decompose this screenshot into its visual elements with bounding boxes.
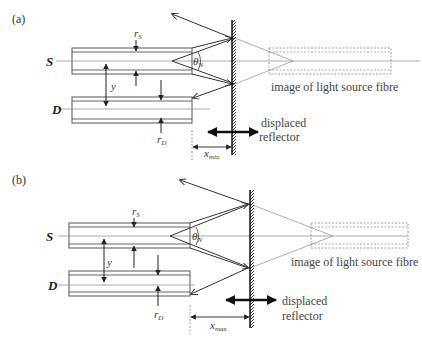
- fibre-optic-displacement-sensor-diagram: (a) S D rS y rD θN: [0, 0, 422, 345]
- cone-upper: [172, 38, 235, 61]
- angle-symbol: θN: [192, 230, 202, 244]
- angle-symbol: θN: [193, 55, 203, 69]
- ray-incident-lower: [190, 248, 248, 268]
- detector-fibre: [69, 271, 190, 296]
- reflector-caption-2: reflector: [282, 309, 323, 323]
- detector-label: D: [47, 278, 58, 293]
- ray-reflected-upper: [180, 180, 248, 204]
- xmin-symbol: xmin: [203, 147, 220, 161]
- ray-reflected-lower: [193, 84, 232, 98]
- cone-upper: [170, 204, 250, 236]
- cone-lower: [170, 236, 250, 268]
- panel-b-label: (b): [12, 173, 26, 187]
- y-symbol: y: [110, 80, 116, 92]
- rs-symbol: rS: [132, 205, 140, 219]
- image-caption: image of light source fibre: [271, 80, 398, 94]
- panel-a-label: (a): [12, 12, 25, 26]
- panel-b: (b) S D rS y rD θN: [12, 173, 418, 334]
- ray-reflected-lower: [191, 268, 248, 294]
- panel-a: (a) S D rS y rD θN: [12, 12, 420, 161]
- ray-incident-upper: [190, 204, 248, 223]
- reflector-caption-1: displaced: [261, 116, 306, 130]
- source-label: S: [46, 54, 53, 69]
- y-symbol: y: [106, 256, 112, 268]
- rd-symbol: rD: [154, 308, 163, 322]
- ray-reflected-upper: [172, 14, 232, 38]
- virtual-ray-upper: [235, 38, 293, 61]
- reflector-caption-2: reflector: [259, 130, 300, 144]
- virtual-ray-upper: [250, 204, 333, 236]
- detector-fibre: [72, 97, 192, 123]
- source-label: S: [46, 229, 53, 244]
- xmax-symbol: xmax: [209, 319, 227, 333]
- detector-label: D: [51, 102, 62, 117]
- reflector-caption-1: displaced: [282, 294, 327, 308]
- cone-lower: [172, 61, 235, 84]
- image-caption: image of light source fibre: [291, 255, 418, 269]
- image-fibre: [311, 223, 408, 248]
- reflector: [250, 190, 254, 328]
- rs-symbol: rS: [134, 27, 142, 41]
- reflector: [232, 20, 236, 155]
- rd-symbol: rD: [157, 133, 166, 147]
